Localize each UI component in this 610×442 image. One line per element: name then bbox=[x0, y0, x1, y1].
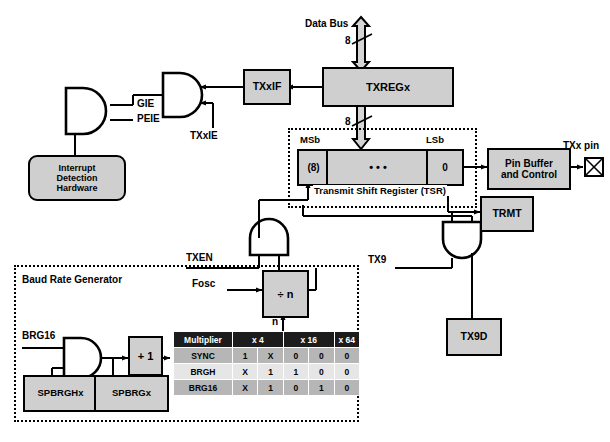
cell: 1 bbox=[283, 364, 308, 380]
cell: 1 bbox=[258, 380, 283, 396]
txregx-label: TXREGx bbox=[366, 81, 410, 93]
cell: 0 bbox=[334, 364, 359, 380]
n-label: n bbox=[272, 316, 278, 327]
multiplier-table-header-row: Multiplier x 4 x 16 x 64 bbox=[174, 332, 360, 348]
data-bus-arrow bbox=[353, 17, 369, 71]
row-name-brg16: BRG16 bbox=[174, 380, 233, 396]
fosc-label: Fosc bbox=[192, 278, 215, 289]
cell: 0 bbox=[309, 348, 334, 364]
multiplier-header-x16: x 16 bbox=[283, 332, 334, 348]
tx9d-block[interactable]: TX9D bbox=[446, 318, 502, 356]
tsr-group-label: Transmit Shift Register (TSR) bbox=[313, 185, 447, 196]
tsr-cell-msb-label: (8) bbox=[307, 162, 319, 173]
tsr-cell-lsb-label: 0 bbox=[442, 162, 448, 173]
txregx-block[interactable]: TXREGx bbox=[322, 67, 454, 107]
row-name-sync: SYNC bbox=[174, 348, 233, 364]
multiplier-header-x64: x 64 bbox=[334, 332, 359, 348]
cell: 0 bbox=[334, 348, 359, 364]
interrupt-detection-hardware-block[interactable]: Interrupt Detection Hardware bbox=[28, 155, 126, 201]
bus-width-mid-label: 8 bbox=[345, 116, 351, 127]
tsr-lsb-label: LSb bbox=[426, 134, 444, 145]
pin-buffer-and-control-block[interactable]: Pin Buffer and Control bbox=[487, 148, 571, 190]
and-gate-interrupt-enable bbox=[163, 73, 202, 117]
uart-transmit-block-diagram: TXREGx TXxIF Interrupt Detection Hardwar… bbox=[0, 0, 610, 442]
tsr-cell-middle[interactable]: • • • bbox=[326, 149, 430, 186]
multiplier-header-cell: Multiplier bbox=[174, 332, 233, 348]
cell: 0 bbox=[309, 364, 334, 380]
trmt-block[interactable]: TRMT bbox=[480, 196, 534, 232]
cell: X bbox=[233, 364, 258, 380]
txx-pin-label: TXx pin bbox=[563, 140, 599, 151]
tsr-msb-label: MSb bbox=[300, 134, 320, 145]
tsr-cell-lsb[interactable]: 0 bbox=[426, 149, 464, 186]
peie-label: PEIE bbox=[137, 113, 160, 124]
trmt-label: TRMT bbox=[492, 208, 521, 220]
data-bus-label: Data Bus bbox=[305, 18, 348, 29]
cell: X bbox=[258, 348, 283, 364]
txen-label: TXEN bbox=[186, 252, 213, 263]
table-row: BRG16 X 1 0 1 0 bbox=[174, 380, 360, 396]
baud-rate-generator-label: Baud Rate Generator bbox=[22, 274, 122, 285]
txxif-block[interactable]: TXxIF bbox=[243, 69, 291, 105]
and-gate-txen bbox=[250, 219, 288, 255]
and-gate-global-interrupt bbox=[66, 88, 106, 134]
cell: X bbox=[233, 380, 258, 396]
gie-label: GIE bbox=[137, 98, 154, 109]
bus-width-top-label: 8 bbox=[345, 35, 351, 46]
multiplier-header-x4: x 4 bbox=[233, 332, 284, 348]
txxie-label: TXxIE bbox=[190, 130, 218, 141]
txxif-label: TXxIF bbox=[253, 81, 282, 93]
cell: 1 bbox=[309, 380, 334, 396]
multiplier-table: Multiplier x 4 x 16 x 64 SYNC 1 X 0 0 0 … bbox=[173, 331, 360, 396]
and-gate-tx9 bbox=[443, 222, 481, 258]
table-row: SYNC 1 X 0 0 0 bbox=[174, 348, 360, 364]
cell: 0 bbox=[283, 348, 308, 364]
table-row: BRGH X 1 1 0 0 bbox=[174, 364, 360, 380]
cell: 0 bbox=[334, 380, 359, 396]
cell: 0 bbox=[283, 380, 308, 396]
tx9d-label: TX9D bbox=[461, 331, 488, 343]
cell: 1 bbox=[233, 348, 258, 364]
tx9-label: TX9 bbox=[368, 254, 386, 265]
brg16-label: BRG16 bbox=[22, 330, 55, 341]
interrupt-detection-hardware-label: Interrupt Detection Hardware bbox=[56, 163, 97, 193]
cell: 1 bbox=[258, 364, 283, 380]
pin-buffer-and-control-label: Pin Buffer and Control bbox=[501, 158, 557, 180]
row-name-brgh: BRGH bbox=[174, 364, 233, 380]
tsr-cell-middle-label: • • • bbox=[369, 161, 387, 173]
